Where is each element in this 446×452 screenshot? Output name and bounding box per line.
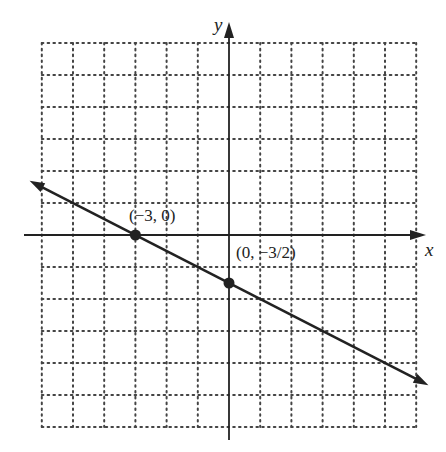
point-label-y-intercept: (0, −3/2) — [236, 243, 296, 263]
x-axis-label: x — [425, 239, 433, 261]
x-axis-arrow-icon — [410, 230, 426, 240]
coordinate-plane — [0, 0, 446, 452]
y-axis-label: y — [214, 14, 222, 36]
point-marker — [130, 230, 141, 241]
point-marker — [224, 278, 235, 289]
line-arrow-right-icon — [413, 374, 429, 385]
line-arrow-left-icon — [30, 181, 46, 192]
y-axis-arrow-icon — [224, 22, 234, 38]
point-label-x-intercept: (−3, 0) — [129, 206, 175, 226]
